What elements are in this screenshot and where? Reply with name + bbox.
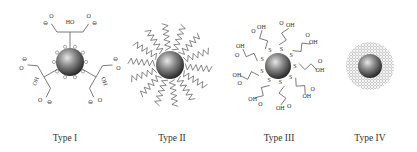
negative-charge-label: ⊖ — [47, 99, 52, 105]
carbonyl-oxygen-label: O — [318, 58, 323, 64]
sulfur-label: S — [293, 63, 296, 69]
type-4-nanoparticle — [358, 54, 382, 78]
oxygen-label: O — [49, 13, 54, 19]
surface-oxygen — [84, 60, 87, 63]
polymer-chain — [177, 76, 195, 100]
sulfur-label: S — [280, 46, 283, 52]
surface-oxygen — [73, 45, 76, 48]
citrate-arm — [28, 65, 44, 77]
polymer-chain — [145, 30, 163, 54]
oxygen-label: O — [116, 65, 121, 71]
carbonyl-oxygen-label: O — [287, 103, 292, 109]
sulfur-label: S — [290, 52, 293, 58]
surface-oxygen — [63, 76, 66, 79]
thiol-chain — [279, 86, 286, 105]
oxygen-label: O — [19, 65, 24, 71]
acid-oh-label: OH — [316, 67, 325, 73]
type-2-label: Type II — [158, 133, 186, 143]
citrate-arm — [89, 77, 96, 97]
type-4-label: Type IV — [354, 133, 385, 143]
surface-oxygen — [63, 45, 66, 48]
type-1-label: Type I — [53, 133, 77, 143]
hydroxyl-label: HO — [66, 19, 75, 25]
thiol-chain — [260, 30, 268, 49]
thiol-chain — [255, 86, 270, 98]
polymer-chain — [155, 80, 169, 106]
nanoparticle-types-diagram: O⊖O⊖HOO⊖O⊖OHO⊖O⊖OH SOHOSOHOSOHOSOHOSOHOS… — [0, 0, 417, 152]
negative-charge-label: ⊖ — [22, 56, 27, 62]
surface-oxygen — [55, 70, 58, 73]
surface-oxygen — [81, 70, 84, 73]
hydroxyl-label: OH — [100, 76, 109, 87]
sulfur-label: S — [261, 56, 264, 62]
type-3-panel: SOHOSOHOSOHOSOHOSOHOSOHOSOHOSOHOSOHO — [233, 20, 325, 110]
acid-oh-label: OH — [257, 24, 266, 30]
carbonyl-oxygen-label: O — [306, 32, 311, 38]
sulfur-label: S — [289, 74, 292, 80]
carbonyl-oxygen-label: O — [279, 20, 284, 26]
negative-charge-label: ⊖ — [43, 20, 48, 26]
polymer-chain — [178, 33, 199, 55]
acid-oh-label: OH — [302, 93, 311, 99]
polymer-chain — [169, 80, 178, 107]
sulfur-label: S — [267, 77, 270, 83]
polymer-chain — [162, 24, 171, 51]
type-1-nanoparticle — [56, 48, 84, 76]
polymer-chain — [185, 64, 212, 72]
sulfur-label: S — [260, 68, 263, 74]
oxygen-label: O — [38, 97, 43, 103]
negative-charge-label: ⊖ — [88, 99, 93, 105]
oxygen-label: O — [86, 13, 91, 19]
type-2-panel — [128, 24, 212, 107]
type-4-panel — [346, 42, 394, 90]
carbonyl-oxygen-label: O — [238, 80, 243, 86]
carbonyl-oxygen-label: O — [258, 101, 263, 107]
acid-oh-label: OH — [248, 96, 257, 102]
type-1-panel: O⊖O⊖HOO⊖O⊖OHO⊖O⊖OH — [19, 13, 121, 105]
acid-oh-label: OH — [309, 39, 318, 45]
type-3-nanoparticle — [265, 53, 291, 79]
sulfur-label: S — [268, 47, 271, 53]
polymer-chain — [133, 42, 157, 60]
polymer-chain — [184, 70, 208, 88]
thiol-chain — [299, 64, 317, 71]
type-2-nanoparticle — [156, 51, 184, 79]
citrate-arm — [96, 65, 112, 77]
negative-charge-label: ⊖ — [92, 20, 97, 26]
carbonyl-oxygen-label: O — [311, 86, 316, 92]
acid-oh-label: OH — [286, 22, 295, 28]
thiol-chain — [243, 49, 258, 61]
polymer-chain — [172, 24, 186, 50]
type-3-label: Type III — [264, 133, 295, 143]
negative-charge-label: ⊖ — [113, 56, 118, 62]
surface-oxygen — [81, 51, 84, 54]
sulfur-label: S — [279, 79, 282, 85]
acid-oh-label: OH — [236, 43, 245, 49]
surface-oxygen — [52, 60, 55, 63]
carbonyl-oxygen-label: O — [235, 52, 240, 58]
thiol-chain — [293, 43, 311, 51]
acid-oh-label: OH — [233, 72, 242, 78]
thiol-chain — [279, 28, 289, 44]
surface-oxygen — [55, 51, 58, 54]
oxygen-label: O — [98, 97, 103, 103]
hydroxyl-label: OH — [31, 76, 40, 87]
polymer-chain — [140, 76, 161, 98]
acid-oh-label: OH — [276, 105, 285, 111]
carbonyl-oxygen-label: O — [251, 28, 256, 34]
surface-oxygen — [73, 76, 76, 79]
thiol-chain — [240, 72, 259, 80]
thiol-chain — [296, 78, 306, 94]
citrate-arm — [44, 77, 51, 97]
polymer-chain — [128, 58, 155, 66]
